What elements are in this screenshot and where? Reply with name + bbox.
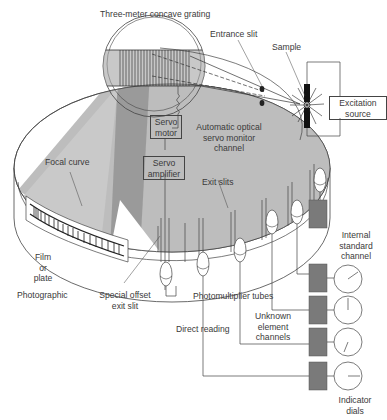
label-excitation: Excitation	[330, 98, 386, 109]
label-servo-motor-2: motor	[151, 128, 181, 139]
label-internal-2: standard	[333, 241, 379, 252]
label-servo-monitor-3: channel	[188, 143, 270, 154]
label-plate: plate	[30, 273, 56, 284]
excitation-source-box: Excitation source	[329, 96, 387, 120]
label-servo-motor-1: Servo	[151, 117, 181, 128]
label-servo-monitor: Automatic optical servo monitor channel	[188, 122, 270, 154]
label-photomultiplier-tubes: Photomultiplier tubes	[193, 291, 273, 302]
label-servo-monitor-1: Automatic optical	[188, 122, 270, 133]
label-indicator-1: Indicator	[332, 395, 378, 406]
servo-amplifier-box: Servo amplifier	[143, 156, 185, 180]
indicator-dials	[327, 265, 362, 390]
label-grating: Three-meter concave grating	[100, 9, 210, 20]
label-indicator-2: dials	[332, 406, 378, 417]
label-unknown-element-channels: Unknown element channels	[250, 311, 296, 343]
label-or: or	[30, 263, 56, 274]
label-exit-slits: Exit slits	[202, 177, 234, 188]
label-source: source	[330, 109, 386, 120]
label-special-offset: Special offset exit slit	[92, 290, 158, 311]
label-sample: Sample	[272, 42, 301, 53]
label-servo-amplifier-1: Servo	[144, 158, 184, 169]
servo-motor-box: Servo motor	[150, 115, 182, 139]
label-unknown-3: channels	[250, 332, 296, 343]
label-special-offset-1: Special offset	[92, 290, 158, 301]
label-photographic: Photographic	[17, 290, 68, 301]
label-film-plate: Film or plate	[30, 252, 56, 284]
label-internal-3: channel	[333, 251, 379, 262]
amplifier-boxes	[309, 200, 327, 390]
label-entrance-slit: Entrance slit	[210, 29, 257, 40]
label-servo-monitor-2: servo monitor	[188, 133, 270, 144]
label-film: Film	[30, 252, 56, 263]
label-indicator-dials: Indicator dials	[332, 395, 378, 416]
label-internal-standard: Internal standard channel	[333, 230, 379, 262]
label-special-offset-2: exit slit	[92, 301, 158, 312]
label-focal-curve: Focal curve	[45, 157, 89, 168]
label-servo-amplifier-2: amplifier	[144, 169, 184, 180]
label-direct-reading: Direct reading	[176, 324, 230, 335]
entrance-slit	[260, 86, 265, 106]
label-internal-1: Internal	[333, 230, 379, 241]
label-unknown-2: element	[250, 322, 296, 333]
label-unknown-1: Unknown	[250, 311, 296, 322]
